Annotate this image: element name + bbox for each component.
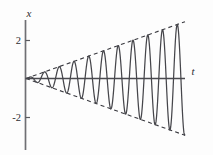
- oscillation-chart: x t 2 -2: [0, 0, 213, 155]
- y-axis-label: x: [26, 7, 32, 19]
- oscillation-curve: [26, 24, 185, 135]
- y-tick-label-positive-2: 2: [16, 35, 21, 46]
- lower-envelope-line: [26, 79, 185, 136]
- figure-container: x t 2 -2: [0, 0, 213, 155]
- y-tick-label-negative-2: -2: [12, 112, 21, 123]
- x-axis-label: t: [191, 65, 195, 77]
- upper-envelope-line: [26, 22, 185, 79]
